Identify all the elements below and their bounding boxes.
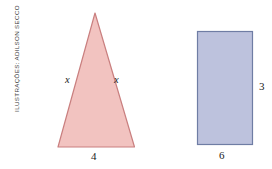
shapes-layer	[0, 0, 272, 169]
triangle-right-side-label: x	[114, 74, 119, 85]
geometry-figure-canvas: ILUSTRAÇÕES: ADILSON SECCO 4 x x 3 6	[0, 0, 272, 169]
rectangle-shape	[198, 32, 253, 145]
rectangle-width-label: 6	[219, 149, 225, 161]
triangle-base-label: 4	[91, 150, 97, 162]
rectangle-height-label: 3	[259, 80, 265, 92]
triangle-left-side-label: x	[65, 74, 70, 85]
